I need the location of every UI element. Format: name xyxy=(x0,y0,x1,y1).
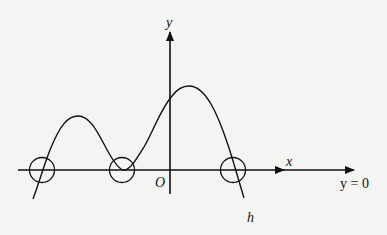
asymptote-label: y = 0 xyxy=(340,176,369,191)
curve-h xyxy=(33,86,244,199)
origin-label: O xyxy=(155,175,165,190)
x-axis-label: x xyxy=(285,154,293,169)
function-graph: y x O y = 0 h xyxy=(0,0,387,235)
y-axis-label: y xyxy=(164,15,173,30)
curve-label: h xyxy=(247,210,254,225)
